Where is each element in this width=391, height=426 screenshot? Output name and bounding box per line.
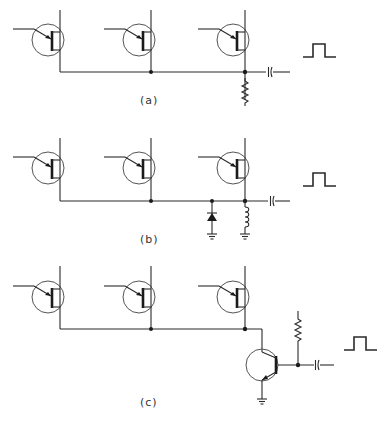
transistor-b2 (104, 152, 155, 184)
diode-b (207, 201, 217, 239)
coupling-capacitor-c (316, 360, 320, 370)
inductor-b (240, 201, 250, 239)
transistor-a3 (198, 24, 249, 56)
panel-c (13, 266, 377, 404)
coupling-capacitor-a (269, 67, 273, 77)
collector-resistor-c (295, 316, 301, 344)
pulse-waveform-b (303, 173, 336, 186)
pulse-waveform-a (303, 44, 336, 57)
transistor-c2 (104, 281, 155, 313)
panel-a (13, 10, 336, 106)
output-transistor-c (246, 349, 314, 404)
transistor-b1 (13, 152, 64, 184)
panel-b (13, 138, 336, 239)
transistor-a1 (13, 24, 64, 56)
coupling-capacitor-b (271, 196, 275, 206)
transistor-b3 (198, 152, 249, 184)
panel-label-c: (c) (140, 396, 158, 409)
circuit-diagram (0, 0, 391, 426)
panel-label-b: (b) (140, 233, 159, 246)
pulse-waveform-c (344, 337, 377, 350)
transistor-c1 (13, 281, 64, 313)
transistor-a2 (104, 24, 155, 56)
panel-label-a: (a) (140, 94, 158, 107)
transistor-c3 (198, 281, 249, 313)
